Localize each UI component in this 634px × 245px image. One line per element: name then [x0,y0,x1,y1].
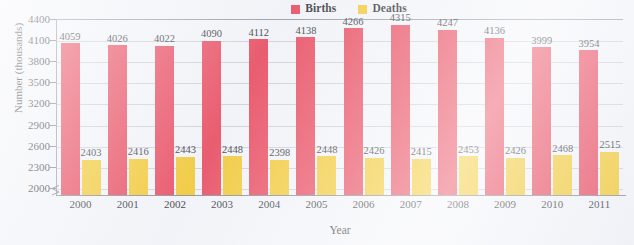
y-axis-tick-mark [50,167,56,168]
bar-births: 4059 [61,43,80,195]
bar-deaths: 2398 [270,160,289,195]
legend-item-births: Births [291,3,336,15]
bar-value-label: 4136 [484,26,505,37]
bar-deaths: 2448 [317,156,336,195]
bar-group: 39992468 [529,19,576,195]
bar-births: 4136 [485,38,504,195]
bar-births: 4247 [438,30,457,195]
legend-label-deaths: Deaths [372,3,406,15]
x-axis-tick-label: 2004 [246,199,293,210]
y-axis-tick-label: 3200 [4,98,50,109]
legend-swatch-deaths-icon [358,5,367,14]
bar-value-label: 2398 [269,148,290,159]
bar-group: 39542515 [576,19,623,195]
bar-value-label: 2416 [128,147,149,158]
bar-group: 42662426 [340,19,387,195]
y-axis-tick-mark [50,103,56,104]
bar-deaths: 2443 [176,157,195,195]
bar-value-label: 4059 [60,32,81,43]
y-axis-tick-label: 4100 [4,35,50,46]
bar-value-label: 4247 [437,18,458,29]
bar-deaths: 2426 [365,158,384,195]
bar-group: 41122398 [246,19,293,195]
bar-births: 4315 [391,25,410,195]
y-axis-title: Number (thousands) [12,0,24,138]
bar-value-label: 2426 [505,146,526,157]
x-axis-tick-label: 2001 [104,199,151,210]
bar-births: 3999 [532,47,551,195]
x-axis-tick-label: 2000 [57,199,104,210]
chart-figure: Births Deaths 20002300260029003200350038… [0,0,634,245]
axis-break-icon [50,183,62,197]
bar-value-label: 2468 [552,144,573,155]
bar-births: 4090 [202,41,221,195]
bar-value-label: 3999 [531,36,552,47]
bar-value-label: 3954 [578,39,599,50]
bars-container: 4059240340262416402224434090244841122398… [57,19,623,195]
y-axis-tick-mark [50,82,56,83]
x-axis-tick-label: 2008 [434,199,481,210]
bar-value-label: 2448 [222,145,243,156]
bar-deaths: 2468 [553,155,572,195]
bar-births: 3954 [579,50,598,195]
x-axis-tick-label: 2009 [482,199,529,210]
bar-deaths: 2403 [82,160,101,195]
y-axis-tick-label: 3800 [4,56,50,67]
bar-value-label: 2415 [411,147,432,158]
bar-value-label: 2443 [175,145,196,156]
x-axis-tick-label: 2006 [340,199,387,210]
bar-value-label: 4022 [154,34,175,45]
bar-value-label: 2403 [81,148,102,159]
bar-value-label: 2453 [458,145,479,156]
bar-births: 4266 [344,28,363,195]
legend-label-births: Births [305,3,336,15]
bar-value-label: 2426 [364,146,385,157]
y-axis-tick-label: 2900 [4,120,50,131]
y-axis-tick-label: 2300 [4,162,50,173]
bar-value-label: 4026 [107,34,128,45]
bar-group: 41362426 [482,19,529,195]
y-axis-tick-mark [50,40,56,41]
y-axis-tick-label: 2600 [4,141,50,152]
x-axis-title: Year [0,224,634,236]
bar-value-label: 4112 [248,28,269,39]
bar-value-label: 4266 [343,17,364,28]
bar-value-label: 4138 [295,26,316,37]
chart-legend: Births Deaths [0,2,634,16]
bar-group: 40902448 [199,19,246,195]
bar-deaths: 2448 [223,156,242,195]
bar-deaths: 2415 [412,159,431,195]
y-axis-tick-label: 3500 [4,77,50,88]
x-axis-tick-label: 2003 [199,199,246,210]
bar-value-label: 4090 [201,29,222,40]
x-axis-line [56,195,626,196]
bar-group: 40222443 [151,19,198,195]
x-axis-tick-label: 2005 [293,199,340,210]
bar-deaths: 2426 [506,158,525,195]
y-axis-tick-mark [50,19,56,20]
bar-value-label: 2515 [599,140,620,151]
legend-swatch-births-icon [291,5,300,14]
y-axis-tick-mark [50,125,56,126]
y-axis-tick-mark [50,61,56,62]
bar-group: 42472453 [434,19,481,195]
x-axis-tick-label: 2002 [151,199,198,210]
y-axis-tick-mark [50,146,56,147]
bar-group: 43152415 [387,19,434,195]
bar-births: 4138 [296,37,315,195]
x-axis-tick-label: 2011 [576,199,623,210]
bar-group: 40262416 [104,19,151,195]
bar-deaths: 2453 [459,156,478,195]
bar-group: 40592403 [57,19,104,195]
bar-deaths: 2515 [600,152,619,195]
y-axis-tick-label: 2000 [4,183,50,194]
legend-item-deaths: Deaths [358,3,406,15]
x-axis-tick-label: 2010 [529,199,576,210]
bar-births: 4026 [108,45,127,195]
x-axis-tick-label: 2007 [387,199,434,210]
bar-group: 41382448 [293,19,340,195]
bar-deaths: 2416 [129,159,148,195]
bar-births: 4022 [155,46,174,195]
bar-value-label: 2448 [316,145,337,156]
bar-births: 4112 [249,39,268,195]
